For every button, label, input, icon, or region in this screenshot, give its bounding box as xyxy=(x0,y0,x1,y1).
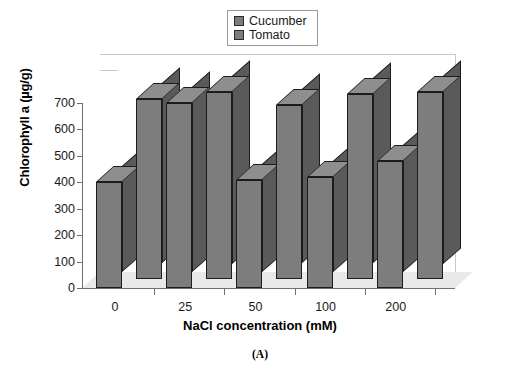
x-axis-line xyxy=(82,288,455,289)
x-tick-label: 25 xyxy=(155,300,215,314)
bar-front-face xyxy=(136,99,162,279)
x-tick-mark xyxy=(435,289,436,295)
x-tick-mark xyxy=(224,289,225,295)
y-axis-line xyxy=(82,103,83,289)
y-tick-mark xyxy=(77,182,82,183)
x-tick-label: 100 xyxy=(296,300,356,314)
y-tick-label: 300 xyxy=(35,203,75,215)
bar-front-face xyxy=(206,92,232,280)
x-tick-mark xyxy=(154,289,155,295)
x-tick-mark xyxy=(365,289,366,295)
x-tick-label: 200 xyxy=(366,300,426,314)
y-tick-mark xyxy=(77,235,82,236)
bar-front-face xyxy=(307,177,333,288)
bar-front-face xyxy=(96,182,122,288)
y-tick-label: 500 xyxy=(35,150,75,162)
bar-side-face xyxy=(443,60,461,263)
y-tick-label: 0 xyxy=(35,282,75,294)
y-tick-label: 400 xyxy=(35,176,75,188)
y-axis-title: Chlorophyll a (µg/g) xyxy=(17,48,32,208)
plot-back-wall-top xyxy=(100,54,455,55)
y-tick-mark xyxy=(77,209,82,210)
x-tick-label: 50 xyxy=(225,300,285,314)
y-tick-mark xyxy=(77,103,82,104)
bar-front-face xyxy=(276,105,302,279)
plot-depth-diagonal xyxy=(82,70,119,87)
bar-front-face xyxy=(166,103,192,288)
y-tick-mark xyxy=(77,262,82,263)
bar-front-face xyxy=(347,94,373,279)
bar-front-face xyxy=(236,180,262,288)
y-tick-label: 700 xyxy=(35,97,75,109)
x-tick-mark xyxy=(295,289,296,295)
x-tick-label: 0 xyxy=(85,300,145,314)
y-tick-label: 100 xyxy=(35,256,75,268)
bar-front-face xyxy=(417,92,443,280)
y-tick-label: 200 xyxy=(35,229,75,241)
y-tick-mark xyxy=(77,156,82,157)
y-tick-label: 600 xyxy=(35,123,75,135)
x-axis-title: NaCl concentration (mM) xyxy=(60,318,460,333)
y-tick-mark xyxy=(77,129,82,130)
figure-panel: Cucumber Tomato 010020030040050060070002… xyxy=(0,0,505,374)
bar-front-face xyxy=(377,161,403,288)
y-tick-mark xyxy=(77,288,82,289)
figure-caption: (A) xyxy=(60,348,460,360)
